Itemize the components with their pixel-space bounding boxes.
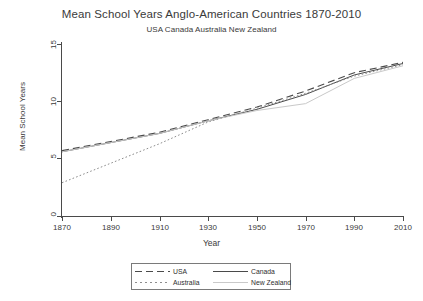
chart-subtitle: USA Canada Australia New Zealand xyxy=(0,25,423,34)
solid-key-icon xyxy=(213,271,248,272)
x-tick-label-1990: 1990 xyxy=(334,223,374,232)
dotted-key-icon xyxy=(135,282,170,283)
x-tick-label-1970: 1970 xyxy=(286,223,326,232)
series-lines xyxy=(62,44,403,216)
chart-title: Mean School Years Anglo-American Countri… xyxy=(0,8,423,20)
legend-item-usa[interactable]: USA xyxy=(135,266,213,277)
chart-canvas: Mean School Years Anglo-American Countri… xyxy=(0,0,423,301)
legend-item-australia[interactable]: Australia xyxy=(135,277,213,288)
legend-label-australia: Australia xyxy=(173,277,199,288)
legend-row-1: USA Canada xyxy=(132,266,292,277)
legend-item-canada[interactable]: Canada xyxy=(213,266,291,277)
x-tick-label-1950: 1950 xyxy=(237,223,277,232)
y-tick-label-5: 5 xyxy=(50,154,58,174)
legend-row-2: Australia New Zealand xyxy=(132,277,292,288)
x-tick-2010 xyxy=(403,217,404,221)
legend-item-new-zealand[interactable]: New Zealand xyxy=(213,277,291,288)
y-tick-label-10: 10 xyxy=(50,97,58,117)
x-tick-1890 xyxy=(111,217,112,221)
x-tick-label-1910: 1910 xyxy=(140,223,180,232)
series-line-new-zealand xyxy=(62,66,403,152)
x-tick-1990 xyxy=(354,217,355,221)
x-tick-label-1890: 1890 xyxy=(91,223,131,232)
light-solid-key-icon xyxy=(213,282,248,283)
x-axis-line xyxy=(61,216,404,217)
legend-label-usa: USA xyxy=(173,266,187,277)
y-tick-label-15: 15 xyxy=(50,40,58,60)
series-line-australia xyxy=(62,65,403,183)
x-tick-1930 xyxy=(208,217,209,221)
chart-legend: USA Canada Australia New Zealand xyxy=(131,263,291,290)
x-tick-label-2010: 2010 xyxy=(383,223,423,232)
legend-label-canada: Canada xyxy=(251,266,275,277)
plot-area xyxy=(62,44,403,216)
x-tick-1950 xyxy=(257,217,258,221)
x-tick-1870 xyxy=(62,217,63,221)
long-dash-key-icon xyxy=(135,271,170,272)
x-tick-label-1930: 1930 xyxy=(188,223,228,232)
legend-label-new-zealand: New Zealand xyxy=(251,277,291,288)
y-axis-title: Mean School Years xyxy=(18,67,27,167)
x-tick-1970 xyxy=(306,217,307,221)
x-tick-label-1870: 1870 xyxy=(42,223,82,232)
x-tick-1910 xyxy=(160,217,161,221)
x-axis-title: Year xyxy=(0,238,423,248)
